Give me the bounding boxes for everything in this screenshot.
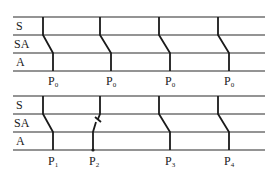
top-row-label-sa: SA (14, 38, 29, 50)
bottom-path-2-upper (98, 96, 100, 119)
top-path-3 (159, 17, 170, 71)
bottom-path-2-lower (93, 122, 96, 150)
bottom-point-label-2: P2 (89, 155, 99, 169)
bottom-path-1 (43, 96, 53, 150)
bottom-row-label-sa: SA (14, 117, 29, 129)
top-path-2 (100, 17, 111, 71)
top-point-label-3: P0 (165, 75, 175, 89)
bottom-row-label-s: S (16, 99, 23, 111)
bottom-point-label-1: P1 (48, 155, 58, 169)
top-point-label-1: P0 (48, 75, 58, 89)
top-diagram-paths (43, 17, 229, 71)
bottom-path-4 (218, 96, 229, 150)
top-path-1 (43, 17, 53, 71)
bottom-point-label-4: P4 (224, 155, 234, 169)
bottom-row-label-a: A (16, 135, 25, 147)
top-point-label-4: P0 (224, 75, 234, 89)
top-point-label-2: P0 (106, 75, 116, 89)
bottom-diagram-paths (43, 96, 229, 150)
top-diagram-lines (13, 17, 265, 71)
bottom-point-label-3: P3 (165, 155, 175, 169)
diagram-canvas (0, 0, 279, 179)
top-row-label-a: A (16, 56, 25, 68)
top-path-4 (218, 17, 229, 71)
top-row-label-s: S (16, 20, 23, 32)
p2-dot (91, 148, 94, 151)
bottom-path-3 (159, 96, 170, 150)
bottom-diagram-lines (13, 96, 265, 150)
